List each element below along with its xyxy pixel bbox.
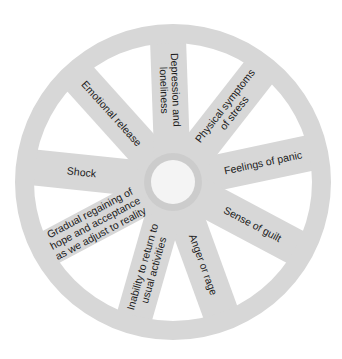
- spoke-label-gradual-regaining: Gradual regaining ofhope and acceptancea…: [42, 183, 148, 262]
- hub-center: [151, 160, 195, 204]
- label-line: loneliness: [158, 67, 172, 114]
- grief-wheel-diagram: Feelings of panicSense of guiltAnger or …: [0, 0, 342, 359]
